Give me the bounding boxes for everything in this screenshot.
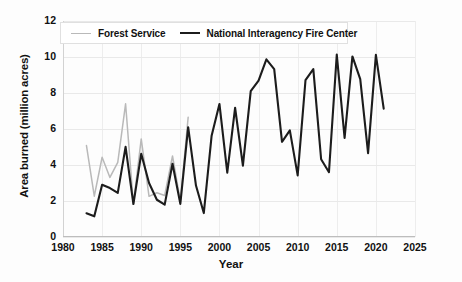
chart-legend: Forest ServiceNational Interagency Fire … bbox=[60, 22, 348, 44]
legend-label: National Interagency Fire Center bbox=[207, 28, 358, 39]
legend-label: Forest Service bbox=[98, 28, 166, 39]
y-tick-label: 2 bbox=[34, 194, 56, 206]
y-axis-title: Area burned (million acres) bbox=[18, 26, 30, 226]
legend-line-swatch-icon bbox=[180, 32, 200, 34]
x-tick-label: 1980 bbox=[41, 241, 85, 253]
plot-area bbox=[63, 21, 415, 237]
y-tick-label: 4 bbox=[34, 158, 56, 170]
x-tick-label: 2000 bbox=[197, 241, 241, 253]
wildfire-area-burned-line-chart: Area burned (million acres) 024681012 19… bbox=[0, 0, 462, 282]
y-axis-tick-labels: 024681012 bbox=[32, 21, 56, 237]
x-axis-title: Year bbox=[0, 258, 462, 270]
y-tick-label: 6 bbox=[34, 122, 56, 134]
x-tick-label: 2020 bbox=[354, 241, 398, 253]
x-tick-label: 2005 bbox=[237, 241, 281, 253]
x-tick-label: 2010 bbox=[276, 241, 320, 253]
x-tick-label: 1995 bbox=[158, 241, 202, 253]
x-tick-label: 2025 bbox=[393, 241, 437, 253]
gridline-horizontal bbox=[63, 237, 415, 238]
legend-line-swatch-icon bbox=[71, 33, 91, 34]
legend-entry[interactable]: Forest Service bbox=[71, 28, 166, 39]
series-layer bbox=[63, 21, 415, 237]
y-tick-label: 12 bbox=[34, 14, 56, 26]
x-tick-label: 1985 bbox=[80, 241, 124, 253]
y-tick-label: 8 bbox=[34, 86, 56, 98]
gridline-vertical bbox=[415, 21, 416, 237]
legend-entry[interactable]: National Interagency Fire Center bbox=[180, 28, 358, 39]
x-tick-label: 1990 bbox=[119, 241, 163, 253]
series-line bbox=[86, 55, 383, 217]
y-tick-label: 10 bbox=[34, 50, 56, 62]
x-tick-label: 2015 bbox=[315, 241, 359, 253]
x-axis-tick-labels: 1980198519901995200020052010201520202025 bbox=[63, 241, 415, 257]
